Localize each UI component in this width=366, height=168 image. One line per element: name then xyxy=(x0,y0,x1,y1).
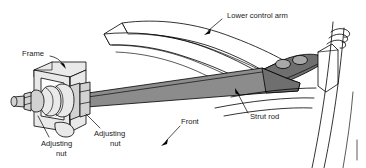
tire-outer-edge xyxy=(312,22,333,168)
adjusting-nut-rear xyxy=(80,82,90,117)
label-adjusting-nut-left-line1: Adjusting xyxy=(41,139,72,148)
control-arm-boss-right xyxy=(293,55,308,64)
leader-line-adjusting-nut-right xyxy=(86,114,100,128)
label-strut-rod: Strut rod xyxy=(250,112,279,121)
stud-end-cap xyxy=(11,97,17,107)
leader-front xyxy=(161,126,180,146)
label-adjusting-nut-left-line2: nut xyxy=(56,149,67,158)
adjusting-nut-front xyxy=(24,92,31,111)
label-adjusting-nut-right-line1: Adjusting xyxy=(94,129,125,138)
label-front: Front xyxy=(181,117,200,126)
label-lower-control-arm: Lower control arm xyxy=(227,11,288,20)
leader-adjusting-nut-right xyxy=(86,114,100,128)
bushing-stack xyxy=(11,83,80,120)
suspension-strut-rod-diagram: Lower control arm Frame Strut rod Front … xyxy=(0,0,366,168)
leader-line-front xyxy=(166,126,180,141)
arrowhead-front xyxy=(161,139,168,146)
label-adjusting-nut-right-line2: nut xyxy=(110,139,121,148)
contour-line-2 xyxy=(215,98,314,108)
label-frame: Frame xyxy=(22,49,44,58)
wheel-outline xyxy=(312,22,357,168)
rim-edge xyxy=(343,92,353,168)
adjusting-nut-rear-body xyxy=(80,82,90,117)
spring-coil-3 xyxy=(331,29,350,38)
strut-rod xyxy=(74,68,300,108)
steering-knuckle xyxy=(318,29,350,92)
diagram-canvas: Lower control arm Frame Strut rod Front … xyxy=(0,0,366,168)
leader-line-lower-control-arm xyxy=(208,19,222,31)
control-arm-boss-left xyxy=(276,59,291,68)
